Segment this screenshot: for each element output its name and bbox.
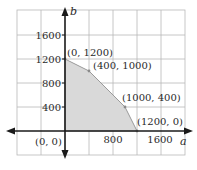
y-tick-1200: 1200 (36, 54, 61, 65)
label-0-1200: (0, 1200) (67, 47, 113, 58)
y-tick-800: 800 (42, 78, 61, 89)
x-axis-left-arrow-icon (6, 128, 15, 135)
y-axis-up-arrow-icon (62, 7, 69, 16)
label-400-1000: (400, 1000) (93, 60, 152, 71)
x-axis-label: a (180, 135, 187, 148)
y-axis-label: b (70, 5, 77, 18)
feasible-region-chart: b a 1600 1200 800 400 800 1600 (0, 0) (0… (0, 0, 197, 170)
x-tick-1600: 1600 (147, 134, 172, 145)
label-1200-0: (1200, 0) (137, 116, 183, 127)
y-tick-1600: 1600 (36, 30, 61, 41)
label-origin: (0, 0) (35, 136, 62, 147)
y-tick-400: 400 (42, 102, 61, 113)
y-axis-down-arrow-icon (62, 150, 69, 159)
x-axis-right-arrow-icon (184, 128, 193, 135)
label-1000-400: (1000, 400) (122, 92, 181, 103)
x-tick-800: 800 (103, 134, 122, 145)
